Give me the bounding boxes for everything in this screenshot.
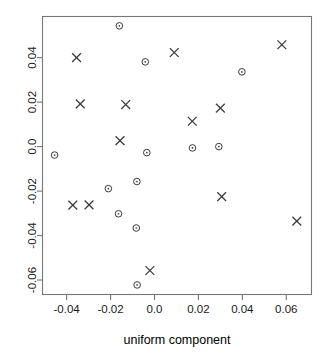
y-tick-label: -0.02: [26, 178, 38, 204]
x-tick-label: 0.04: [231, 303, 254, 315]
circle-center-dot: [192, 147, 194, 149]
circle-center-dot: [241, 71, 243, 73]
x-axis-title: uniform component: [123, 333, 231, 347]
circle-center-dot: [218, 146, 220, 148]
circle-center-dot: [118, 213, 120, 215]
circle-center-dot: [54, 154, 56, 156]
circle-center-dot: [108, 188, 110, 190]
x-tick-label: 0.02: [187, 303, 209, 315]
y-tick-label: -0.04: [26, 222, 38, 249]
y-tick-label: 0.02: [26, 91, 38, 113]
scatter-plot-figure: -0.04-0.020.00.020.040.06 0.040.020.0-0.…: [0, 0, 325, 358]
x-tick-label: 0.0: [146, 303, 162, 315]
y-tick-label: -0.06: [26, 267, 38, 293]
circle-center-dot: [119, 25, 121, 27]
circle-center-dot: [144, 61, 146, 63]
circle-center-dot: [136, 284, 138, 286]
x-tick-label: -0.02: [97, 303, 123, 315]
circle-center-dot: [135, 227, 137, 229]
x-tick-label: 0.06: [275, 303, 297, 315]
circle-center-dot: [136, 181, 138, 183]
y-tick-label: 0.04: [26, 46, 38, 69]
circle-center-dot: [146, 152, 148, 154]
x-tick-label: -0.04: [54, 303, 81, 315]
y-tick-label: 0.0: [26, 139, 38, 155]
plot-canvas: -0.04-0.020.00.020.040.06 0.040.020.0-0.…: [0, 0, 325, 358]
